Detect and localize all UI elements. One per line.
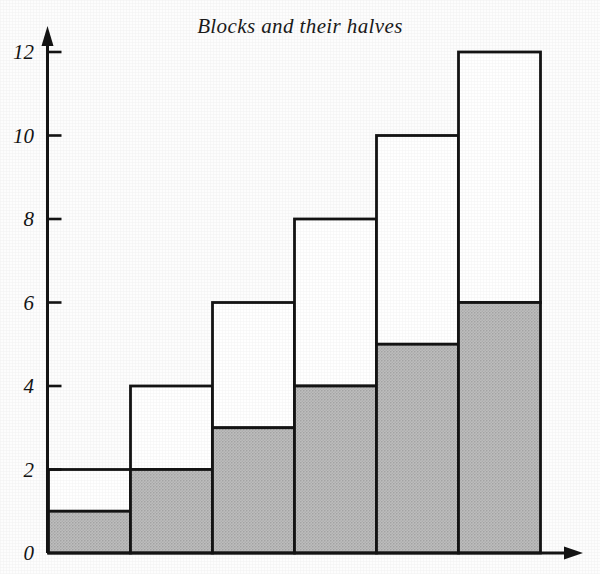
bar-group [295, 219, 377, 553]
chart-figure: Blocks and their halves 024681012 [0, 0, 600, 574]
y-tick-label: 4 [0, 376, 34, 397]
x-axis-arrow-icon [564, 547, 583, 560]
bar-segment-whole [49, 470, 131, 512]
bar-segment-whole [131, 386, 213, 470]
y-tick-marks [48, 52, 62, 470]
bar-segment-half [49, 511, 131, 553]
y-tick-label: 10 [0, 125, 34, 146]
y-tick-label: 2 [0, 459, 34, 480]
bar-segment-half [459, 303, 541, 554]
bar-segment-whole [295, 219, 377, 386]
bar-segment-whole [377, 136, 459, 345]
bar-segment-whole [459, 52, 541, 303]
bar-group [377, 136, 459, 554]
y-tick-label: 8 [0, 209, 34, 230]
bar-segment-half [131, 470, 213, 554]
bar-group [213, 303, 295, 554]
y-axis-arrow-icon [42, 26, 54, 46]
bar-segment-half [213, 428, 295, 553]
chart-plot-area [0, 0, 600, 574]
y-tick-label: 12 [0, 42, 34, 63]
y-tick-label: 0 [0, 543, 34, 564]
bar-group [459, 52, 541, 553]
bars-layer [49, 52, 541, 553]
y-tick-label: 6 [0, 292, 34, 313]
bar-group [49, 470, 131, 554]
bar-group [131, 386, 213, 553]
bar-segment-half [295, 386, 377, 553]
bar-segment-whole [213, 303, 295, 428]
bar-segment-half [377, 344, 459, 553]
